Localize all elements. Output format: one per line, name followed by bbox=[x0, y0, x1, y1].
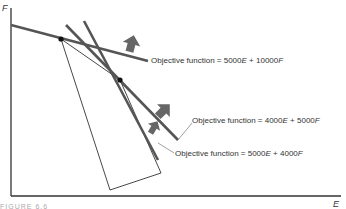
y-axis-label: F bbox=[2, 3, 8, 13]
objective-2-prefix: Objective function = 4000 bbox=[192, 116, 283, 125]
objective-3-var-f: F bbox=[298, 149, 303, 158]
leader-line-3 bbox=[158, 143, 174, 153]
objective-line-2 bbox=[66, 25, 178, 140]
objective-label-2: Objective function = 4000E + 5000F bbox=[192, 116, 320, 126]
leader-line-2 bbox=[178, 123, 192, 140]
objective-3-mid: + 4000 bbox=[271, 149, 298, 158]
objective-label-1: Objective function = 5000E + 10000F bbox=[151, 56, 283, 66]
objective-3-prefix: Objective function = 5000 bbox=[175, 149, 266, 158]
lp-diagram: F E Objective function = 5000E + 10000F … bbox=[0, 0, 346, 209]
x-axis-label: E bbox=[333, 199, 339, 209]
objective-2-var-f: F bbox=[315, 116, 320, 125]
objective-2-mid: + 5000 bbox=[288, 116, 315, 125]
objective-label-3: Objective function = 5000E + 4000F bbox=[175, 149, 303, 159]
optimal-point-1 bbox=[58, 36, 63, 41]
objective-1-prefix: Objective function = 5000 bbox=[151, 56, 242, 65]
objective-line-1 bbox=[11, 25, 148, 61]
arrow-icon-1 bbox=[121, 33, 143, 54]
diagram-canvas bbox=[0, 0, 346, 209]
objective-line-3 bbox=[84, 21, 158, 160]
figure-caption: FIGURE 6.6 bbox=[0, 203, 48, 209]
objective-1-mid: + 10000 bbox=[247, 56, 278, 65]
objective-1-var-f: F bbox=[278, 56, 283, 65]
arrow-icon-2 bbox=[151, 98, 176, 123]
optimal-point-2 bbox=[117, 77, 122, 82]
